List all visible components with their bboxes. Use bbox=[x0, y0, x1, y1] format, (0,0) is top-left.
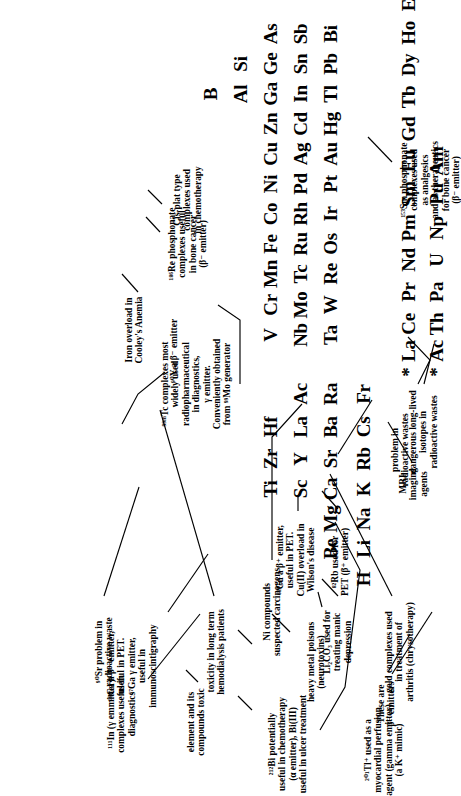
element-La-3: La bbox=[291, 416, 310, 438]
annotation-li-carbonate: Li₂CO₃ used for treating manic depressio… bbox=[322, 610, 353, 673]
element-V: V bbox=[261, 328, 280, 341]
annotation-as-toxic: element and its compounds toxic bbox=[186, 688, 207, 755]
element-Hf: Hf bbox=[261, 417, 280, 438]
lanthanide-Dy: Dy bbox=[399, 54, 418, 77]
actinide-Pa: Pa bbox=[427, 282, 446, 303]
element-Re: Re bbox=[321, 263, 340, 285]
lanthanide-Tb: Tb bbox=[399, 86, 418, 109]
element-Ta: Ta bbox=[321, 325, 340, 345]
element-Ga: Ga bbox=[261, 82, 280, 106]
annotation-cu62: ⁶²Cu a β⁺ emitter, useful in PET. Cu(II)… bbox=[275, 524, 317, 597]
element-Rb: Rb bbox=[354, 447, 373, 471]
actinide-Th: Th bbox=[427, 313, 446, 336]
element-Co: Co bbox=[261, 203, 280, 226]
element-Ca: Ca bbox=[321, 478, 340, 501]
element-Sr: Sr bbox=[321, 450, 340, 468]
element-Tc: Tc bbox=[291, 265, 310, 284]
element-Si: Si bbox=[231, 56, 250, 71]
element-Fr: Fr bbox=[354, 384, 373, 403]
lanthanide-La: La bbox=[399, 340, 418, 362]
annotation-rb82: ⁸²Rb used for PET (β⁺ emitter) bbox=[330, 528, 351, 596]
element-Nb: Nb bbox=[291, 323, 310, 347]
element-Sb: Sb bbox=[291, 24, 310, 45]
element-Pd: Pd bbox=[291, 173, 310, 195]
lanthanide-Nd: Nd bbox=[399, 248, 418, 272]
lanthanide-Pr: Pr bbox=[399, 282, 418, 301]
element-Fe: Fe bbox=[261, 234, 280, 253]
annotation-beta-emitters: These are β⁻ emitters bbox=[376, 681, 397, 726]
element-Zn: Zn bbox=[261, 113, 280, 136]
element-H: H bbox=[354, 572, 373, 586]
annotation-sm153: ¹⁵³Sm phosphonate complexes used as anal… bbox=[399, 141, 461, 219]
element-Pb: Pb bbox=[321, 53, 340, 75]
annotation-cisplatin: Cis-plat type complexes used in chemothe… bbox=[172, 166, 203, 233]
element-Cr: Cr bbox=[261, 294, 280, 316]
element-Au: Au bbox=[321, 142, 340, 166]
element-Ra: Ra bbox=[321, 383, 340, 406]
element-Cs: Cs bbox=[354, 417, 373, 438]
annotation-actinide-waste: dangerous long-lived isotopes in radioac… bbox=[408, 390, 439, 473]
lanthanide-Ho: Ho bbox=[399, 21, 418, 45]
element-Pt: Pt bbox=[321, 175, 340, 192]
element-Zr: Zr bbox=[261, 449, 280, 470]
lanthanide-Gd: Gd bbox=[399, 117, 418, 142]
element-As: As bbox=[261, 24, 280, 45]
actinide-Np: Np bbox=[427, 216, 446, 240]
lanthanide-Ce: Ce bbox=[399, 313, 418, 335]
element-Sn: Sn bbox=[291, 54, 310, 75]
element-Ru: Ru bbox=[291, 232, 310, 256]
element-W: W bbox=[321, 296, 340, 315]
element-Mn: Mn bbox=[261, 260, 280, 288]
annotation-fe-cooleys: Iron overload in Cooley's Anemia bbox=[124, 297, 145, 364]
element-Ba: Ba bbox=[321, 416, 340, 438]
annotation-al-toxicity: toxicity in long term hemodialysis patie… bbox=[206, 609, 227, 695]
element-Bi: Bi bbox=[321, 25, 340, 42]
element-Tl: Tl bbox=[321, 85, 340, 102]
annotation-tc99m: ⁹⁹ᵐTc complexes most widely used radioph… bbox=[160, 339, 233, 429]
element-Y: Y bbox=[291, 452, 310, 465]
element-Ni: Ni bbox=[261, 175, 280, 193]
element-Li: Li bbox=[354, 540, 373, 557]
element-Rh: Rh bbox=[291, 202, 310, 226]
element-K: K bbox=[354, 482, 373, 496]
actinide-Ac: Ac bbox=[427, 340, 446, 362]
element-Ac-3: Ac bbox=[291, 383, 310, 405]
annotation-bi212: ²¹²Bi potentially useful in chemotherapy… bbox=[267, 695, 309, 793]
annotation-heavy-metals: heavy metal poisons (neurotoxins) bbox=[306, 622, 327, 702]
element-Al: Al bbox=[231, 85, 250, 103]
element-Mo: Mo bbox=[291, 292, 310, 319]
element-In: In bbox=[291, 85, 310, 102]
element-Na: Na bbox=[354, 508, 373, 531]
actinide-marker: * bbox=[427, 367, 446, 377]
element-Os: Os bbox=[321, 233, 340, 255]
lanthanide-Er: Er bbox=[399, 0, 418, 11]
element-Hg: Hg bbox=[321, 112, 340, 136]
element-Ag: Ag bbox=[291, 143, 310, 166]
element-Ir: Ir bbox=[321, 206, 340, 221]
lanthanide-marker: * bbox=[399, 367, 418, 377]
element-Ti: Ti bbox=[261, 480, 280, 497]
actinide-U: U bbox=[427, 253, 446, 266]
element-Cu: Cu bbox=[261, 142, 280, 166]
annotation-in111: ¹¹¹In (γ emmitter) complexes useful in d… bbox=[106, 675, 137, 753]
element-Cd: Cd bbox=[291, 112, 310, 136]
element-B: B bbox=[201, 88, 220, 100]
element-Sc: Sc bbox=[291, 480, 310, 498]
element-Ge: Ge bbox=[261, 53, 280, 76]
